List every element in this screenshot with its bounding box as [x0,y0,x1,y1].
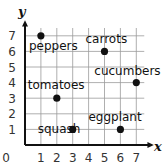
data-point-squash: squash [38,122,81,136]
x-tick-label: 5 [101,151,109,165]
x-axis-label: x [153,139,162,154]
y-axis-arrow-icon [22,20,28,26]
data-point-peppers: peppers [29,32,78,53]
x-tick-label: 6 [117,151,125,165]
point-marker [53,95,60,102]
y-tick-label: 1 [8,123,16,137]
y-tick-label: 3 [8,92,16,106]
x-tick-label: 3 [69,151,77,165]
y-tick-label: 2 [8,107,16,121]
x-tick-label: 1 [37,151,45,165]
y-tick-label: 5 [8,61,16,75]
y-axis-label: y [17,4,27,19]
point-marker [101,48,108,55]
y-tick-label: 7 [8,29,16,43]
point-label: eggplant [88,110,142,124]
point-marker [117,126,124,133]
point-label: tomatoes [28,78,85,92]
x-axis-arrow-icon [147,142,153,148]
point-marker [133,79,140,86]
y-tick-label: 6 [8,45,16,59]
y-tick-label: 4 [8,76,16,90]
x-tick-label: 2 [53,151,61,165]
coordinate-grid-chart: 012345671234567 pepperscarrotscucumberst… [0,0,167,167]
x-tick-label: 4 [85,151,93,165]
data-points: pepperscarrotscucumberstomatoessquashegg… [28,32,161,136]
point-label: squash [38,122,81,136]
point-label: cucumbers [94,64,160,78]
x-tick-label: 0 [2,151,10,165]
x-tick-label: 7 [132,151,140,165]
point-label: peppers [29,39,78,53]
point-label: carrots [86,32,128,46]
